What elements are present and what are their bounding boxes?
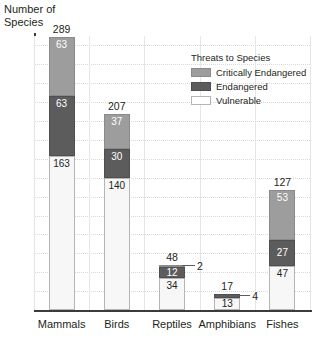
legend-label: Vulnerable <box>216 95 261 106</box>
legend-label: Endangered <box>216 81 268 92</box>
segment-value-label: 37 <box>111 116 122 127</box>
segment-vulnerable[interactable]: 13 <box>214 298 240 310</box>
segment-value-label: 2 <box>197 260 203 272</box>
segment-endangered[interactable]: 12 <box>159 267 185 278</box>
segment-endangered[interactable]: 63 <box>49 96 75 156</box>
x-axis-line <box>34 310 312 312</box>
category-label-mammals: Mammals <box>38 318 86 330</box>
segment-value-label: 63 <box>56 39 67 50</box>
segment-endangered[interactable]: 27 <box>269 240 295 266</box>
bar-mammals[interactable]: 6363163289 <box>49 37 75 310</box>
segment-endangered[interactable]: 30 <box>104 149 130 177</box>
category-separator <box>310 36 311 310</box>
segment-critically-endangered[interactable]: 53 <box>269 190 295 240</box>
segment-value-label: 27 <box>277 247 288 258</box>
legend-item[interactable]: Endangered <box>191 81 306 92</box>
legend-swatch-endg <box>191 82 211 91</box>
segment-value-label: 34 <box>166 280 177 291</box>
legend-label: Critically Endangered <box>216 67 306 78</box>
legend-title: Threats to Species <box>191 52 306 63</box>
category-label-reptiles: Reptiles <box>152 318 192 330</box>
bar-reptiles[interactable]: 2123448 <box>159 265 185 310</box>
bar-total-label: 127 <box>274 176 292 188</box>
category-label-birds: Birds <box>104 318 129 330</box>
segment-vulnerable[interactable]: 47 <box>269 266 295 310</box>
legend-item[interactable]: Vulnerable <box>191 95 306 106</box>
bar-fishes[interactable]: 532747127 <box>269 190 295 310</box>
segment-critically-endangered[interactable]: 63 <box>49 37 75 97</box>
segment-value-label: 4 <box>252 290 258 302</box>
leader-line <box>237 295 250 296</box>
segment-vulnerable[interactable]: 34 <box>159 278 185 310</box>
legend-item[interactable]: Critically Endangered <box>191 67 306 78</box>
segment-callout: 2 <box>182 260 203 272</box>
segment-critically-endangered[interactable]: 37 <box>104 114 130 149</box>
segment-value-label: 12 <box>166 267 177 278</box>
bar-total-label: 17 <box>221 280 233 292</box>
segment-value-label: 53 <box>277 192 288 203</box>
legend-swatch-vuln <box>191 96 211 105</box>
legend: Threats to Species Critically Endangered… <box>191 52 306 109</box>
segment-value-label: 63 <box>56 98 67 109</box>
bar-total-label: 48 <box>166 251 178 263</box>
segment-vulnerable[interactable]: 140 <box>104 178 130 310</box>
category-label-amphibians: Amphibians <box>198 318 255 330</box>
segment-value-label: 30 <box>111 151 122 162</box>
bar-birds[interactable]: 3730140207 <box>104 114 130 310</box>
segment-value-label: 47 <box>277 268 288 279</box>
segment-callout: 4 <box>237 290 258 302</box>
segment-value-label: 13 <box>222 298 233 309</box>
segment-value-label: 163 <box>53 158 70 169</box>
bar-amphibians[interactable]: 41317 <box>214 294 240 310</box>
species-threats-chart: Number of Species 6363163289373014020721… <box>0 0 314 344</box>
bar-total-label: 207 <box>108 100 126 112</box>
segment-value-label: 140 <box>108 180 125 191</box>
category-label-fishes: Fishes <box>266 318 298 330</box>
bar-total-label: 289 <box>53 23 71 35</box>
y-axis-title: Number of Species <box>4 3 55 28</box>
segment-vulnerable[interactable]: 163 <box>49 156 75 310</box>
legend-swatch-crit <box>191 68 211 77</box>
